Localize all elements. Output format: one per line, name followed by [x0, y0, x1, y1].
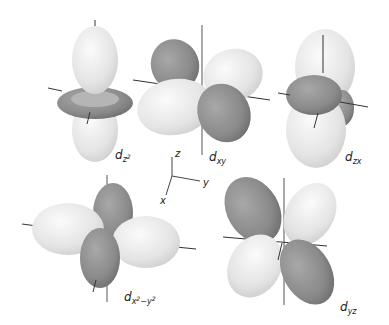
label-dx2y2: dx2−y2	[124, 290, 155, 306]
d-orbitals-diagram: dz2 dxy dzx dx2−y2 dyz z y x	[0, 0, 389, 325]
label-dyz: dyz	[340, 300, 357, 316]
orbital-dxy	[133, 25, 270, 155]
orbital-dzx	[278, 29, 368, 168]
axes-legend	[166, 157, 200, 195]
label-dxy: dxy	[209, 150, 226, 166]
orbital-dz2	[48, 20, 133, 162]
orbital-dyz	[213, 167, 347, 315]
axis-label-y: y	[203, 177, 209, 188]
label-dz2: dz2	[115, 148, 131, 164]
orbital-dx2y2	[22, 175, 196, 302]
label-dzx: dzx	[345, 150, 362, 166]
axis-label-z: z	[175, 148, 180, 159]
orbital-figure	[0, 0, 389, 325]
axis-label-x: x	[160, 195, 166, 206]
